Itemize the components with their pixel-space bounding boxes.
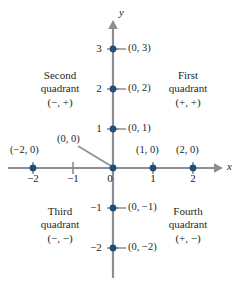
quadrant-fourth-line1: Fourth bbox=[173, 205, 202, 217]
x-tick-label-1: 1 bbox=[146, 172, 160, 185]
x-tick-label-0: 0 bbox=[103, 172, 117, 185]
point-dot-1-0 bbox=[150, 165, 157, 172]
y-axis-arrowhead bbox=[108, 20, 118, 29]
quadrant-first-line1: First bbox=[178, 69, 198, 81]
point-dot-2-0 bbox=[190, 165, 197, 172]
point-dot-0-2 bbox=[110, 86, 117, 93]
quadrant-third-line1: Third bbox=[48, 205, 72, 217]
y-tick-label-1: 1 bbox=[92, 122, 106, 135]
quadrant-second-line1: Second bbox=[44, 69, 76, 81]
quadrant-third-line2: quadrant bbox=[41, 218, 79, 230]
quadrant-label-first: First quadrant (+, +) bbox=[152, 69, 224, 109]
point-label-0-2: (0, 2) bbox=[128, 82, 151, 94]
quadrant-first-signs: (+, +) bbox=[152, 96, 224, 109]
coordinate-plane-figure: y x 3 2 1 −1 −2 −2 −1 0 1 2 (0, 3) (0, 2… bbox=[0, 0, 241, 284]
y-axis-label: y bbox=[119, 6, 124, 19]
x-tick-label-neg1: −1 bbox=[63, 172, 83, 185]
point-label-0-0: (0, 0) bbox=[57, 133, 80, 145]
quadrant-label-third: Third quadrant (−, −) bbox=[24, 205, 96, 245]
point-label-1-0: (1, 0) bbox=[136, 144, 159, 156]
leader-line-origin bbox=[78, 146, 111, 166]
quadrant-fourth-line2: quadrant bbox=[169, 218, 207, 230]
quadrant-second-signs: (−, +) bbox=[24, 96, 96, 109]
point-label-0-3: (0, 3) bbox=[128, 42, 151, 54]
point-dot-0-0 bbox=[110, 165, 117, 172]
point-dot-0-1 bbox=[110, 126, 117, 133]
quadrant-fourth-signs: (+, −) bbox=[152, 232, 224, 245]
point-dot-0-neg1 bbox=[110, 205, 117, 212]
quadrant-third-signs: (−, −) bbox=[24, 232, 96, 245]
y-tick-label-3: 3 bbox=[92, 42, 106, 55]
point-label-0-1: (0, 1) bbox=[128, 122, 151, 134]
point-label-2-0: (2, 0) bbox=[176, 144, 199, 156]
x-tick-label-neg2: −2 bbox=[23, 172, 43, 185]
quadrant-first-line2: quadrant bbox=[169, 82, 207, 94]
point-label-neg2-0: (−2, 0) bbox=[10, 144, 39, 156]
quadrant-second-line2: quadrant bbox=[41, 82, 79, 94]
x-axis-arrowhead bbox=[214, 163, 223, 173]
x-tick-label-2: 2 bbox=[186, 172, 200, 185]
point-dot-0-neg2 bbox=[110, 245, 117, 252]
point-dot-0-3 bbox=[110, 46, 117, 53]
point-dot-neg2-0 bbox=[30, 165, 37, 172]
quadrant-label-fourth: Fourth quadrant (+, −) bbox=[152, 205, 224, 245]
quadrant-label-second: Second quadrant (−, +) bbox=[24, 69, 96, 109]
x-axis-label: x bbox=[227, 160, 232, 173]
